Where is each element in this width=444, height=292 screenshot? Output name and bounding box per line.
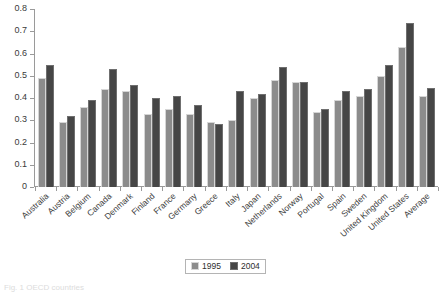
bar-group <box>226 9 247 187</box>
bar-1995 <box>80 107 88 187</box>
bars-layer <box>35 9 438 187</box>
bar-1995 <box>334 100 342 187</box>
bar-group <box>120 9 141 187</box>
bar-2004 <box>279 67 287 187</box>
y-axis-tick-mark <box>30 9 34 10</box>
bar-2004 <box>194 105 202 187</box>
bar-group <box>268 9 289 187</box>
bar-group <box>417 9 438 187</box>
y-axis-tick-label: 0.6 <box>14 48 27 59</box>
y-axis-tick-label: 0.8 <box>14 3 27 14</box>
y-axis-tick-label: 0.1 <box>14 159 27 170</box>
y-axis-tick-mark <box>30 143 34 144</box>
legend-label-2004: 2004 <box>241 261 260 271</box>
bar-1995 <box>356 96 364 187</box>
figure-caption: Fig. 1 OECD countries <box>4 283 434 292</box>
bar-group <box>162 9 183 187</box>
bar-2004 <box>342 91 350 187</box>
y-axis-tick-label: 0.3 <box>14 114 27 125</box>
bar-1995 <box>377 76 385 187</box>
y-axis-tick-mark <box>30 31 34 32</box>
bar-group <box>99 9 120 187</box>
bar-group <box>395 9 416 187</box>
bar-1995 <box>122 91 130 187</box>
bar-2004 <box>130 85 138 187</box>
bar-2004 <box>46 65 54 187</box>
bar-1995 <box>292 82 300 187</box>
x-axis-labels: AustraliaAustriaBelgiumCanadaDenmarkFinl… <box>35 191 438 253</box>
x-axis-category-label: Finland <box>129 191 156 217</box>
y-axis-tick-mark <box>30 76 34 77</box>
bar-2004 <box>109 69 117 187</box>
bar-group <box>205 9 226 187</box>
bar-1995 <box>101 89 109 187</box>
bar-1995 <box>165 109 173 187</box>
legend-swatch-1995-icon <box>191 262 199 270</box>
bar-1995 <box>250 98 258 187</box>
chart-legend: 1995 2004 <box>185 259 266 274</box>
bar-1995 <box>207 122 215 187</box>
bar-1995 <box>38 78 46 187</box>
bar-2004 <box>258 94 266 187</box>
x-axis-category-label: Greece <box>193 191 220 217</box>
bar-2004 <box>385 65 393 187</box>
bar-group <box>35 9 56 187</box>
bar-group <box>374 9 395 187</box>
legend-swatch-2004-icon <box>230 262 238 270</box>
legend-entry-1995[interactable]: 1995 <box>191 261 221 271</box>
bar-2004 <box>173 96 181 187</box>
bar-1995 <box>419 96 427 187</box>
x-axis-tick-mark <box>438 187 439 191</box>
bar-2004 <box>88 100 96 187</box>
bar-group <box>311 9 332 187</box>
y-axis-tick-label: 0.4 <box>14 92 27 103</box>
bar-1995 <box>144 114 152 187</box>
bar-1995 <box>186 114 194 187</box>
bar-1995 <box>398 47 406 187</box>
bar-chart-figure: 0.80.70.60.50.40.30.20.10 AustraliaAustr… <box>0 0 444 292</box>
x-axis-category-label: Australia <box>19 191 50 221</box>
y-axis-tick-mark <box>30 187 34 188</box>
y-axis-tick-mark <box>30 120 34 121</box>
y-axis-tick-mark <box>30 98 34 99</box>
y-axis-tick-label: 0.5 <box>14 70 27 81</box>
bar-group <box>141 9 162 187</box>
bar-1995 <box>228 120 236 187</box>
y-axis-tick-mark <box>30 54 34 55</box>
bar-2004 <box>364 89 372 187</box>
legend-entry-2004[interactable]: 2004 <box>230 261 260 271</box>
bar-2004 <box>321 109 329 187</box>
bar-group <box>56 9 77 187</box>
legend-label-1995: 1995 <box>202 261 221 271</box>
bar-2004 <box>427 88 435 187</box>
bar-group <box>332 9 353 187</box>
bar-2004 <box>236 91 244 187</box>
bar-2004 <box>215 124 223 187</box>
bar-2004 <box>300 82 308 187</box>
bar-group <box>247 9 268 187</box>
bar-group <box>289 9 310 187</box>
y-axis-tick-mark <box>30 165 34 166</box>
y-axis-tick-label: 0 <box>22 181 27 192</box>
bar-1995 <box>271 80 279 187</box>
bar-2004 <box>406 23 414 187</box>
bar-1995 <box>59 122 67 187</box>
bar-group <box>77 9 98 187</box>
y-axis-tick-label: 0.7 <box>14 25 27 36</box>
bar-group <box>183 9 204 187</box>
y-axis-tick-label: 0.2 <box>14 137 27 148</box>
bar-2004 <box>152 98 160 187</box>
bar-group <box>353 9 374 187</box>
bar-1995 <box>313 112 321 187</box>
bar-2004 <box>67 116 75 187</box>
